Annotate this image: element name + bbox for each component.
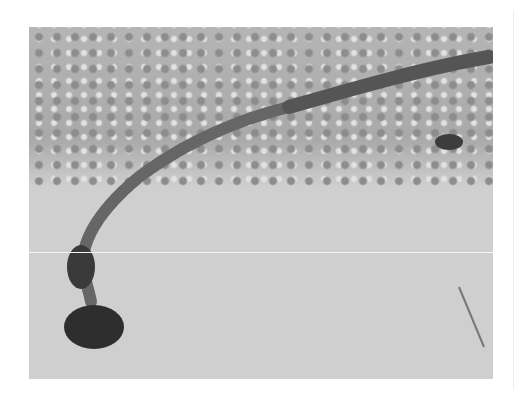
lead-caterpillar: [64, 305, 124, 349]
edge-line: [513, 10, 514, 390]
stray-caterpillar: [435, 134, 463, 150]
caterpillar-line: [29, 27, 493, 379]
scan-line-artifact: [29, 252, 493, 253]
caterpillar-procession-photo: [29, 27, 493, 379]
